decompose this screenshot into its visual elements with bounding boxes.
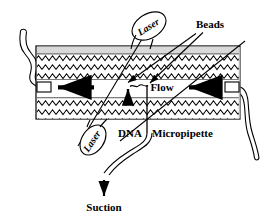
flow-label: Flow — [150, 81, 173, 93]
dna-label: DNA — [118, 127, 142, 139]
chamber-lower-wall — [37, 98, 239, 118]
left-chamber-port — [37, 82, 51, 92]
suction-label: Suction — [86, 201, 121, 213]
flow-chamber-diagram: Flow Beads Laser Laser — [0, 0, 278, 219]
chamber-lid-band — [37, 47, 239, 55]
micropipette-label: Micropipette — [152, 127, 213, 139]
flow-chamber-body — [36, 46, 240, 119]
beads-label: Beads — [196, 18, 225, 30]
chamber-upper-wall — [37, 55, 239, 81]
right-chamber-port — [225, 82, 239, 92]
